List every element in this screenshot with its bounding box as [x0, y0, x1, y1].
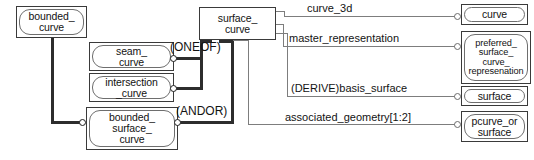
circle-curve-3d	[454, 13, 461, 20]
entity-box-intersection-curve[interactable]: intersection _curve	[89, 73, 174, 102]
line-andor-to-surface-curve	[219, 40, 234, 43]
entity-label-surface: surface	[475, 91, 515, 102]
line-master-rep-riser	[283, 24, 284, 47]
line-assoc-geom-top	[233, 40, 249, 41]
entity-label-curve: curve	[479, 9, 510, 20]
entity-box-seam-curve[interactable]: seam_ curve	[89, 42, 174, 71]
entity-box-surface-curve[interactable]: surface_ curve	[199, 7, 276, 40]
line-bounded-curve-vertical	[51, 38, 54, 123]
entity-label-surface-curve: surface_ curve	[215, 13, 260, 35]
constraint-label-oneof: (ONEOF)	[170, 41, 221, 53]
line-curve3d-run	[284, 16, 458, 17]
line-basis-surface-run	[287, 96, 458, 97]
line-seam-curve-stub	[174, 57, 202, 60]
entity-box-preferred-surface-curve-represenation[interactable]: preferred_ surface_ curve_ represenation	[461, 31, 531, 84]
entity-box-curve[interactable]: curve	[461, 4, 528, 25]
entity-box-surface[interactable]: surface	[461, 86, 528, 106]
circle-bounded-surface-curve-left	[79, 119, 86, 126]
entity-label-seam-curve: seam_ curve	[113, 46, 150, 68]
line-master-rep-run	[283, 46, 458, 47]
entity-label-preferred-surface-curve-represenation: preferred_ surface_ curve_ represenation	[466, 39, 527, 77]
express-g-diagram: bounded_ curve seam_ curve intersection …	[0, 0, 534, 160]
entity-box-bounded-curve[interactable]: bounded_ curve	[16, 6, 87, 38]
circle-bounded-surface-curve-right	[174, 119, 181, 126]
line-assoc-geom-riser	[248, 40, 249, 125]
entity-box-pcurve-or-surface[interactable]: pcurve_or surface	[461, 111, 528, 142]
attribute-label-master-representation: master_representation	[289, 33, 399, 44]
entity-label-pcurve-or-surface: pcurve_or surface	[469, 116, 521, 138]
line-oneof-riser	[200, 57, 203, 90]
circle-associated-geometry	[454, 121, 461, 128]
entity-label-bounded-curve: bounded_ curve	[26, 11, 78, 33]
entity-label-intersection-curve: intersection _curve	[102, 77, 161, 99]
attribute-label-curve-3d: curve_3d	[307, 3, 352, 14]
entity-box-bounded-surface-curve[interactable]: bounded_ surface_ curve	[86, 107, 178, 150]
circle-master-representation	[454, 43, 461, 50]
line-assoc-geom-run	[248, 124, 458, 125]
line-andor-riser	[231, 40, 234, 123]
constraint-label-andor: (ANDOR)	[176, 105, 227, 117]
circle-intersection-curve	[170, 85, 177, 92]
attribute-label-basis-surface: (DERIVE)basis_surface	[291, 83, 407, 94]
line-andor-horizontal	[178, 121, 234, 124]
line-curve3d-riser	[284, 11, 285, 17]
entity-label-bounded-surface-curve: bounded_ surface_ curve	[106, 112, 158, 144]
circle-basis-surface	[454, 93, 461, 100]
attribute-label-associated-geometry: associated_geometry[1:2]	[285, 112, 411, 123]
line-intersection-curve-stub	[174, 87, 202, 90]
circle-seam-curve	[170, 55, 177, 62]
